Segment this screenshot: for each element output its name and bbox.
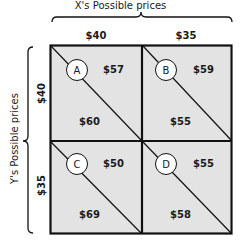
x-payoff-c: $50 [103,158,124,169]
y-payoff-b: $55 [170,116,191,127]
outcome-label-b: B [155,59,177,81]
outcome-label-c: C [66,153,88,175]
x-payoff-b: $59 [193,64,214,75]
x-payoff-d: $55 [193,158,214,169]
y-payoff-d: $58 [170,209,191,220]
y-payoff-c: $69 [79,209,100,220]
outcome-label-d: D [155,153,177,175]
matrix-frame [0,0,241,246]
outcome-label-a: A [66,59,88,81]
y-payoff-a: $60 [79,116,100,127]
x-payoff-a: $57 [103,64,124,75]
